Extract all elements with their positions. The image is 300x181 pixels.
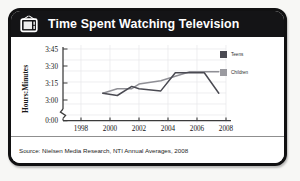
legend-swatch-teens: [220, 51, 227, 58]
x-tick-2000: 2000: [103, 125, 118, 133]
page-title: Time Spent Watching Television: [48, 17, 239, 31]
x-tick-2002: 2002: [132, 125, 147, 133]
y-tick-330: 3:30: [45, 63, 58, 71]
source-note: Source: Nielsen Media Research, NTI Annu…: [19, 147, 188, 154]
y-tick-000: 0:00: [45, 117, 58, 125]
y-tick-315: 3:15: [45, 80, 58, 88]
y-axis-ticklabels: 3:45 3:30 3:15 3:00 0:00: [45, 46, 58, 125]
legend-swatch-children: [220, 69, 227, 76]
legend-label-teens: Teens: [231, 52, 243, 57]
x-tick-1998: 1998: [74, 125, 89, 133]
infographic-card: Time Spent Watching Television: [8, 8, 287, 166]
television-icon: [19, 15, 39, 33]
x-axis-ticklabels: 1998 2000 2002 2004 2006 2008: [74, 125, 234, 133]
legend-item-teens: Teens: [220, 51, 276, 58]
card-footer: Source: Nielsen Media Research, NTI Annu…: [11, 136, 284, 163]
chart-body: Hours:Minutes 3:45 3:30 3:15 3:00 0:00: [11, 37, 284, 143]
x-tick-2004: 2004: [161, 125, 176, 133]
y-tick-345: 3:45: [45, 46, 58, 54]
series-line-teens: [103, 73, 219, 96]
y-axis-title: Hours:Minutes: [21, 65, 30, 113]
y-axis: [60, 47, 65, 121]
x-tick-2006: 2006: [190, 125, 205, 133]
y-tick-300: 3:00: [45, 97, 58, 105]
screenshot-root: Time Spent Watching Television: [0, 0, 300, 181]
legend-label-children: Children: [231, 70, 248, 75]
x-tick-2008: 2008: [219, 125, 234, 133]
card-header: Time Spent Watching Television: [11, 11, 284, 37]
chart-legend: Teens Children: [220, 51, 276, 87]
legend-item-children: Children: [220, 69, 276, 76]
